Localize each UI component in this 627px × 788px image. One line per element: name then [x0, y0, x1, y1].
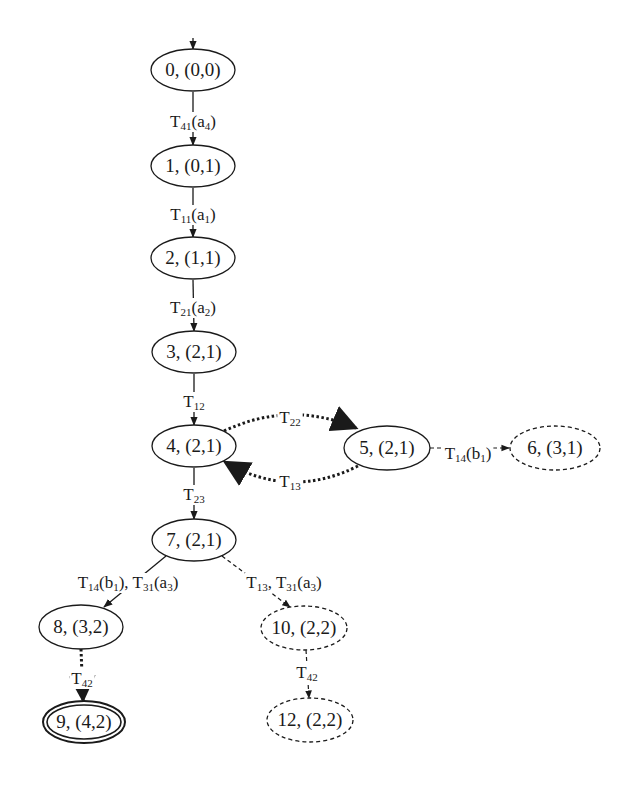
state-node-8: 8, (3,2)	[39, 605, 123, 649]
state-label: 2, (1,1)	[165, 247, 220, 269]
state-label: 3, (2,1)	[166, 341, 221, 363]
state-label: 10, (2,2)	[272, 617, 337, 639]
state-label: 8, (3,2)	[53, 616, 108, 638]
state-node-0: 0, (0,0)	[151, 49, 235, 91]
state-node-6: 6, (3,1)	[510, 426, 600, 470]
state-node-3: 3, (2,1)	[152, 331, 236, 373]
state-graph: 0, (0,0)1, (0,1)2, (1,1)3, (2,1)4, (2,1)…	[0, 0, 627, 788]
nodes-layer: 0, (0,0)1, (0,1)2, (1,1)3, (2,1)4, (2,1)…	[39, 49, 600, 743]
state-label: 12, (2,2)	[278, 709, 343, 731]
state-node-1: 1, (0,1)	[151, 145, 235, 187]
state-node-5: 5, (2,1)	[344, 426, 430, 470]
state-label: 9, (4,2)	[56, 711, 111, 733]
state-label: 4, (2,1)	[166, 435, 221, 457]
state-node-12: 12, (2,2)	[267, 698, 353, 742]
state-node-10: 10, (2,2)	[261, 606, 347, 650]
edges-layer	[81, 38, 509, 700]
state-label: 6, (3,1)	[527, 437, 582, 459]
state-node-4: 4, (2,1)	[152, 425, 236, 467]
state-node-2: 2, (1,1)	[151, 237, 235, 279]
state-label: 7, (2,1)	[166, 529, 221, 551]
state-label: 0, (0,0)	[165, 59, 220, 81]
state-label: 5, (2,1)	[359, 437, 414, 459]
state-node-9: 9, (4,2)	[43, 701, 125, 743]
state-node-7: 7, (2,1)	[152, 519, 236, 561]
state-label: 1, (0,1)	[165, 155, 220, 177]
edge-labels-layer: T41(a4)T11(a1)T21(a2)T12T22T13T14(b1)T23…	[69, 112, 493, 689]
